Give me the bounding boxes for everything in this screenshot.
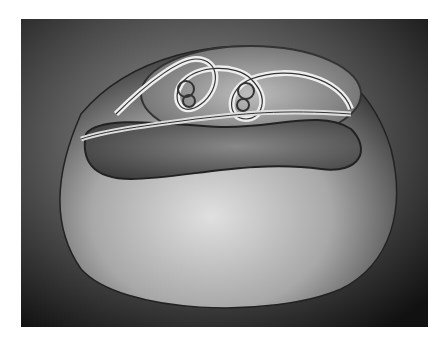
drawing-frame [21, 19, 428, 327]
drawing [21, 19, 428, 327]
